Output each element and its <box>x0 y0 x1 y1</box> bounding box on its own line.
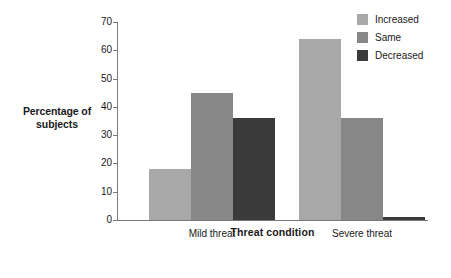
x-axis-line <box>117 220 428 221</box>
y-axis-tick-label: 10 <box>84 187 112 197</box>
y-axis-tick-label: 60 <box>84 45 112 55</box>
legend-item-decreased[interactable]: Decreased <box>357 47 423 63</box>
legend-swatch-decreased-icon <box>357 50 368 61</box>
y-axis-title-line-1: Percentage of <box>23 105 91 117</box>
y-axis-tick-label: 0 <box>84 215 112 225</box>
bar-severe-threat-same <box>341 118 383 220</box>
bar-chart: Percentage of subjects 010203040506070 M… <box>0 0 451 278</box>
y-axis-tick-label: 70 <box>84 17 112 27</box>
y-axis-tick <box>113 135 117 136</box>
legend-swatch-increased-icon <box>357 14 368 25</box>
bar-severe-threat-increased <box>299 39 341 220</box>
x-axis-title: Threat condition <box>117 226 428 238</box>
bar-mild-threat-decreased <box>233 118 275 220</box>
y-axis-tick <box>113 79 117 80</box>
legend-item-same[interactable]: Same <box>357 29 423 45</box>
legend-item-increased[interactable]: Increased <box>357 11 423 27</box>
y-axis-tick <box>113 163 117 164</box>
y-axis-line <box>117 22 118 220</box>
y-axis-tick <box>113 50 117 51</box>
bar-mild-threat-same <box>191 93 233 220</box>
y-axis-tick <box>113 192 117 193</box>
bar-mild-threat-increased <box>149 169 191 220</box>
y-axis-tick <box>113 107 117 108</box>
legend-label: Same <box>375 32 401 43</box>
legend-swatch-same-icon <box>357 32 368 43</box>
y-axis-tick-label: 40 <box>84 102 112 112</box>
y-axis-tick <box>113 22 117 23</box>
legend: IncreasedSameDecreased <box>357 11 423 65</box>
y-axis-tick <box>113 220 117 221</box>
legend-label: Decreased <box>375 50 423 61</box>
y-axis-title-line-2: subjects <box>36 118 78 130</box>
y-axis-tick-label: 50 <box>84 74 112 84</box>
legend-label: Increased <box>375 14 419 25</box>
y-axis-tick-label: 30 <box>84 130 112 140</box>
bar-severe-threat-decreased <box>383 217 425 220</box>
y-axis-tick-label: 20 <box>84 158 112 168</box>
